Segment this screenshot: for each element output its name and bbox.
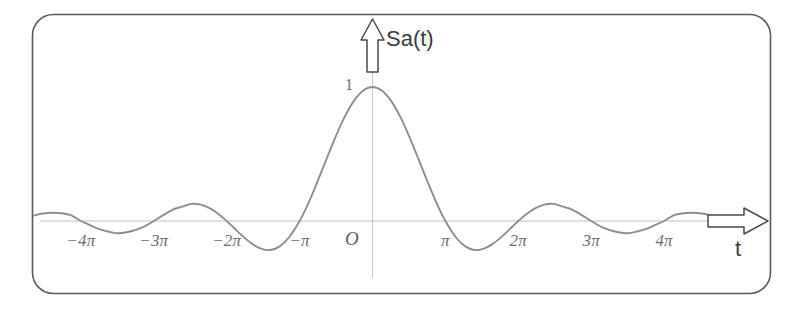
figure-container: Sa(t) t O 1 −4π −3π −2π −π π 2π 3π 4π (0, 0, 797, 309)
figure-border (33, 15, 771, 294)
x-tick-label: −4π (66, 231, 95, 251)
x-tick-label: −2π (212, 231, 241, 251)
x-tick-label: π (441, 231, 450, 251)
x-tick-label: 4π (655, 231, 672, 251)
up-block-arrow-icon (361, 19, 384, 72)
x-tick-label: −π (289, 231, 309, 251)
x-tick-label: 3π (582, 231, 599, 251)
right-block-arrow-icon (708, 208, 768, 234)
x-tick-label: −3π (139, 231, 168, 251)
x-tick-label: 2π (510, 231, 527, 251)
y-axis-label: Sa(t) (386, 26, 434, 52)
origin-label: O (345, 228, 359, 250)
peak-value-label: 1 (345, 76, 353, 94)
x-axis-label: t (735, 236, 741, 262)
